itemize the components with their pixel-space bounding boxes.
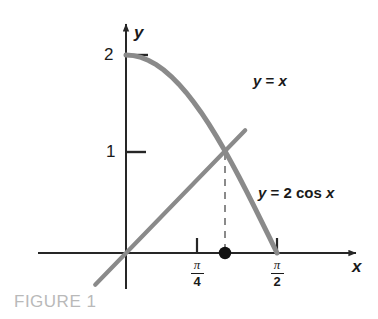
y-axis-label: y [134,24,143,41]
figure-caption: FIGURE 1 [14,292,96,312]
x-tick-label-pi-over-4: π 4 [184,258,210,288]
pi-over-2-numerator: π [264,258,290,272]
identity-label-rhs: x [278,72,286,89]
cosine-curve-label: y = 2 cos x [258,185,334,200]
y-tick-label-1: 1 [106,143,115,160]
solution-dot [219,247,231,259]
identity-line-curve [95,130,245,284]
cosine-label-eq: = [266,184,283,201]
cosine-label-rhs: 2 cos [283,184,321,201]
identity-label-eq: = [261,72,278,89]
y-tick-label-2: 2 [104,46,113,63]
x-axis-label: x [352,258,361,275]
pi-over-2-denominator: 2 [264,275,290,289]
figure-1: y x 2 1 π 4 π 2 y = x y = 2 cos x FIGURE… [0,0,378,319]
cosine-label-var: x [322,184,335,201]
pi-over-4-numerator: π [184,258,210,272]
identity-line-label: y = x [253,73,287,88]
pi-over-4-denominator: 4 [184,275,210,289]
x-tick-label-pi-over-2: π 2 [264,258,290,288]
